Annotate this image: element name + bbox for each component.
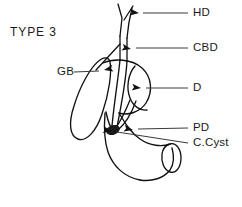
duodenum-horizontal-lower-wall bbox=[140, 148, 173, 181]
label-gb: GB bbox=[57, 65, 74, 77]
leader-line-gb bbox=[74, 71, 99, 72]
anatomy-outline-layer bbox=[71, 4, 181, 181]
arrowhead-gb bbox=[103, 65, 113, 74]
label-d: D bbox=[193, 81, 202, 93]
duodenum-descending-left-wall bbox=[104, 113, 140, 180]
leader-line-layer bbox=[74, 9, 188, 143]
label-cbd: CBD bbox=[193, 41, 218, 53]
arrowhead-d bbox=[132, 84, 142, 92]
diagram-canvas: TYPE 3 HDCBDGBDPDC.Cyst bbox=[0, 0, 242, 207]
leader-line-pd bbox=[138, 128, 188, 129]
label-hd: HD bbox=[193, 6, 210, 18]
label-pd: PD bbox=[193, 121, 209, 133]
label-text-layer: HDCBDGBDPDC.Cyst bbox=[57, 6, 229, 148]
hepatic-duct-left-branch bbox=[118, 4, 122, 36]
leader-line-ccyst bbox=[117, 132, 188, 143]
figure-title: TYPE 3 bbox=[10, 25, 57, 39]
choledochal-cyst-figure: TYPE 3 HDCBDGBDPDC.Cyst bbox=[0, 0, 242, 207]
cystic-duct bbox=[96, 44, 120, 70]
label-ccyst: C.Cyst bbox=[193, 136, 229, 148]
